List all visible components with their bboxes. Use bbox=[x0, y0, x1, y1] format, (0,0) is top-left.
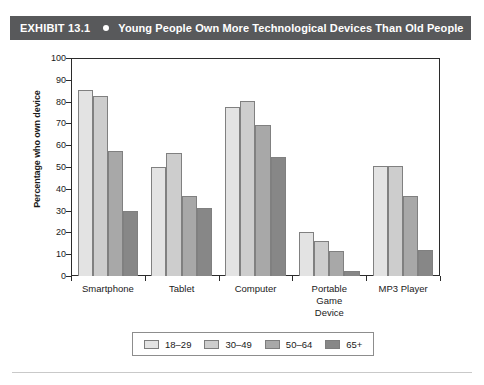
x-axis-label-line: MP3 Player bbox=[366, 283, 440, 295]
exhibit-number-label: EXHIBIT 13.1 bbox=[20, 22, 90, 34]
bar-group bbox=[373, 58, 434, 276]
y-axis-tick-label: 20 bbox=[44, 227, 66, 237]
bar[interactable] bbox=[329, 251, 344, 276]
y-axis-tick-label: 0 bbox=[44, 271, 66, 281]
x-axis-label-line: Computer bbox=[219, 283, 293, 295]
x-axis-category-label: Tablet bbox=[145, 283, 219, 295]
legend-label: 50–64 bbox=[286, 339, 312, 350]
legend-label: 18–29 bbox=[165, 339, 191, 350]
x-axis-category-label: Smartphone bbox=[71, 283, 145, 295]
x-axis-label-line: Portable bbox=[292, 283, 366, 295]
bar-group bbox=[225, 58, 286, 276]
legend-swatch bbox=[204, 340, 219, 349]
bar[interactable] bbox=[418, 250, 433, 276]
bar[interactable] bbox=[182, 196, 197, 276]
y-axis-tick-label: 10 bbox=[44, 249, 66, 259]
bar[interactable] bbox=[299, 232, 314, 276]
bar[interactable] bbox=[197, 208, 212, 276]
bar-group bbox=[78, 58, 139, 276]
x-axis-label-line: Tablet bbox=[145, 283, 219, 295]
bar-group bbox=[151, 58, 212, 276]
bullet-dot-icon bbox=[103, 25, 109, 31]
legend-swatch bbox=[325, 340, 340, 349]
exhibit-title: Young People Own More Technological Devi… bbox=[118, 22, 463, 34]
x-axis-tick-mark bbox=[292, 276, 293, 281]
y-axis-tick-label: 70 bbox=[44, 118, 66, 128]
exhibit-header-bar: EXHIBIT 13.1 Young People Own More Techn… bbox=[10, 16, 471, 40]
x-axis-label-line: Game bbox=[292, 295, 366, 307]
x-axis-tick-mark bbox=[366, 276, 367, 281]
bottom-divider bbox=[12, 372, 472, 373]
bar[interactable] bbox=[255, 125, 270, 277]
legend-item[interactable]: 30–49 bbox=[204, 339, 251, 350]
x-axis-label-line: Smartphone bbox=[71, 283, 145, 295]
bar[interactable] bbox=[123, 211, 138, 276]
x-axis-label-line: Device bbox=[292, 307, 366, 319]
bar-group bbox=[299, 58, 360, 276]
x-axis-tick-mark bbox=[219, 276, 220, 281]
bar[interactable] bbox=[314, 241, 329, 276]
legend-swatch bbox=[144, 340, 159, 349]
x-axis-category-label: PortableGameDevice bbox=[292, 283, 366, 319]
y-axis-tick-label: 80 bbox=[44, 97, 66, 107]
bar[interactable] bbox=[151, 167, 166, 276]
legend-label: 65+ bbox=[346, 339, 362, 350]
y-axis-tick-label: 40 bbox=[44, 184, 66, 194]
legend-label: 30–49 bbox=[225, 339, 251, 350]
bar[interactable] bbox=[240, 101, 255, 276]
bar[interactable] bbox=[388, 166, 403, 276]
bar[interactable] bbox=[271, 157, 286, 276]
legend-swatch bbox=[265, 340, 280, 349]
bars-layer bbox=[71, 58, 440, 276]
bar[interactable] bbox=[373, 166, 388, 276]
bar[interactable] bbox=[78, 90, 93, 276]
y-axis-tick-label: 60 bbox=[44, 140, 66, 150]
exhibit-page: EXHIBIT 13.1 Young People Own More Techn… bbox=[0, 0, 484, 385]
bar[interactable] bbox=[225, 107, 240, 276]
legend-item[interactable]: 50–64 bbox=[265, 339, 312, 350]
bar[interactable] bbox=[166, 153, 181, 276]
x-axis-tick-mark bbox=[145, 276, 146, 281]
x-axis-tick-mark bbox=[71, 276, 72, 281]
bar[interactable] bbox=[403, 196, 418, 276]
bar[interactable] bbox=[93, 96, 108, 276]
y-axis-title: Percentage who own device bbox=[32, 49, 42, 249]
bar[interactable] bbox=[108, 151, 123, 276]
y-axis-tick-label: 90 bbox=[44, 75, 66, 85]
bar[interactable] bbox=[344, 271, 359, 276]
y-axis-tick-label: 30 bbox=[44, 206, 66, 216]
y-axis-tick-label: 100 bbox=[44, 53, 66, 63]
y-axis-tick-label: 50 bbox=[44, 162, 66, 172]
chart-legend: 18–2930–4950–6465+ bbox=[132, 332, 374, 356]
bar-chart: Percentage who own device 01020304050607… bbox=[0, 44, 484, 344]
x-axis-tick-mark bbox=[440, 276, 441, 281]
legend-item[interactable]: 18–29 bbox=[144, 339, 191, 350]
legend-item[interactable]: 65+ bbox=[325, 339, 362, 350]
x-axis-category-label: MP3 Player bbox=[366, 283, 440, 295]
x-axis-category-label: Computer bbox=[219, 283, 293, 295]
